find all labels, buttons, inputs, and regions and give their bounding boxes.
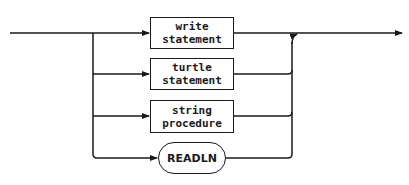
string-procedure-box: stringprocedure: [150, 100, 234, 133]
readln-terminal: READLN: [158, 142, 226, 174]
turtle-line2: statement: [162, 74, 222, 87]
string-line2: procedure: [162, 117, 222, 130]
turtle-statement-box: turtlestatement: [150, 58, 234, 90]
write-statement-box: writestatement: [150, 17, 234, 49]
string-line1: string: [162, 104, 222, 117]
turtle-line1: turtle: [162, 61, 222, 74]
write-line2: statement: [162, 33, 222, 46]
readln-label: READLN: [167, 152, 217, 165]
write-line1: write: [162, 20, 222, 33]
